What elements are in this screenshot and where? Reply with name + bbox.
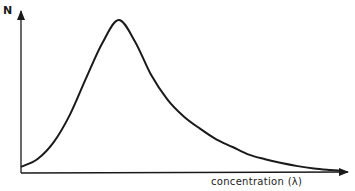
- x-axis: [21, 172, 348, 173]
- y-axis-label: N: [3, 4, 12, 17]
- distribution-curve: [21, 20, 340, 171]
- distribution-chart: [0, 0, 355, 191]
- x-axis-label: concentration (λ): [211, 176, 302, 187]
